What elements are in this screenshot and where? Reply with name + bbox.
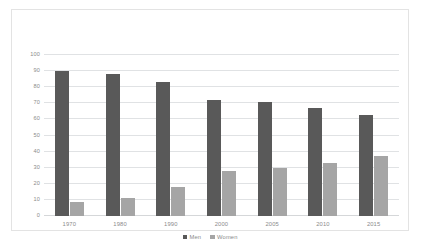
bar-women-1980[interactable] — [121, 198, 135, 216]
x-axis-tick-label: 1980 — [113, 221, 127, 227]
y-axis-tick-label: 100 — [30, 51, 40, 57]
x-axis-tick-label: 2015 — [367, 221, 381, 227]
bar-series-layer: 1970198019902000200520102015 — [44, 55, 399, 216]
bar-women-2015[interactable] — [374, 156, 388, 216]
legend-label: Women — [217, 234, 237, 240]
chart-frame: 0102030405060708090100 19701980199020002… — [11, 9, 409, 231]
plot-area: 0102030405060708090100 19701980199020002… — [44, 55, 399, 216]
chart-legend: MenWomen — [12, 234, 408, 240]
y-axis-tick-label: 40 — [34, 148, 40, 154]
bar-women-2000[interactable] — [222, 171, 236, 216]
x-axis-tick-label: 2000 — [215, 221, 229, 227]
bar-group-2015: 2015 — [348, 55, 399, 216]
x-axis-tick-label: 1970 — [63, 221, 77, 227]
bar-men-1990[interactable] — [156, 82, 170, 216]
bar-men-2015[interactable] — [359, 115, 373, 216]
bar-women-2005[interactable] — [273, 168, 287, 216]
bar-men-2000[interactable] — [207, 100, 221, 216]
y-axis-tick-label: 0 — [37, 212, 40, 218]
bar-group-1970: 1970 — [44, 55, 95, 216]
bar-group-1980: 1980 — [95, 55, 146, 216]
bar-men-2010[interactable] — [308, 108, 322, 216]
bar-group-2000: 2000 — [196, 55, 247, 216]
y-axis-tick-label: 30 — [34, 164, 40, 170]
bar-women-1990[interactable] — [171, 187, 185, 216]
bar-women-1970[interactable] — [70, 202, 84, 216]
y-axis-tick-label: 60 — [34, 115, 40, 121]
y-axis-tick-label: 10 — [34, 196, 40, 202]
y-axis-tick-label: 70 — [34, 99, 40, 105]
legend-swatch-icon — [210, 235, 215, 240]
bar-group-2005: 2005 — [247, 55, 298, 216]
legend-swatch-icon — [183, 235, 188, 240]
bar-men-1970[interactable] — [55, 71, 69, 216]
bar-men-2005[interactable] — [258, 102, 272, 216]
bar-women-2010[interactable] — [323, 163, 337, 216]
x-axis-tick-label: 1990 — [164, 221, 178, 227]
legend-item-women[interactable]: Women — [210, 234, 237, 240]
y-axis-tick-label: 50 — [34, 132, 40, 138]
bar-men-1980[interactable] — [106, 74, 120, 216]
legend-item-men[interactable]: Men — [183, 234, 202, 240]
y-axis-tick-label: 90 — [34, 67, 40, 73]
x-axis-tick-label: 2005 — [265, 221, 279, 227]
legend-label: Men — [190, 234, 202, 240]
bar-group-1990: 1990 — [145, 55, 196, 216]
y-axis-tick-label: 80 — [34, 83, 40, 89]
bar-group-2010: 2010 — [298, 55, 349, 216]
y-axis-tick-label: 20 — [34, 180, 40, 186]
x-axis-tick-label: 2010 — [316, 221, 330, 227]
